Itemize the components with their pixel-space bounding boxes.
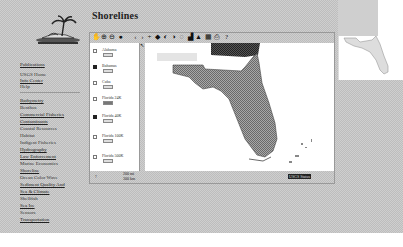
layer-swatch [103, 101, 113, 105]
layer-swatch [103, 53, 113, 57]
sidebar-link-publications[interactable]: Publications [20, 62, 45, 68]
layer-checkbox[interactable] [93, 155, 97, 159]
status-help[interactable]: ? [95, 174, 97, 179]
overview-map[interactable] [338, 0, 403, 80]
sidebar-item[interactable]: Marine Economics [20, 161, 58, 167]
help-icon[interactable]: ? [223, 34, 230, 41]
legend-layer-cuba[interactable]: Cuba [92, 79, 138, 93]
pointer-icon[interactable]: + [146, 34, 153, 41]
sidebar: Publications USGS Home Info Center Help … [16, 0, 84, 233]
layer-label: Florida 500K [102, 153, 123, 158]
layer-swatch [103, 119, 113, 123]
sidebar-item[interactable]: Bathymetry [20, 98, 44, 104]
layer-label: Florida 40K [102, 113, 121, 118]
layer-swatch [103, 139, 113, 143]
refresh-icon[interactable]: ◐ [162, 34, 169, 41]
print-icon[interactable]: ⎙ [213, 34, 220, 41]
layer-label: Florida 24K [102, 95, 121, 100]
identify-icon[interactable]: ◆ [154, 34, 161, 41]
layer-checkbox[interactable] [93, 49, 97, 53]
layer-checkbox[interactable] [93, 65, 97, 69]
select-icon[interactable]: ◑ [170, 34, 177, 41]
sidebar-item[interactable]: Commercial Fisheries [20, 112, 64, 118]
layer-label: Bahamas [102, 63, 117, 68]
legend-layer-bahamas[interactable]: Bahamas [92, 63, 138, 77]
layer-checkbox[interactable] [93, 97, 97, 101]
legend-layer-florida-500k[interactable]: Florida 500K [92, 153, 138, 167]
sidebar-item[interactable]: Shoreline [20, 168, 39, 174]
map-canvas[interactable] [145, 43, 334, 171]
sidebar-item[interactable]: Ocean Color Wave [20, 175, 58, 181]
palm-island-logo [32, 14, 84, 46]
sidebar-item[interactable]: Coastal Resources [20, 126, 57, 132]
sidebar-item[interactable]: Contaminants [20, 119, 48, 125]
sidebar-divider [20, 92, 80, 93]
scale-bar-sublabel: 300 km [123, 176, 135, 181]
sidebar-item[interactable]: Benthos [20, 105, 36, 111]
query-icon[interactable]: ▦ [205, 34, 212, 41]
sidebar-item[interactable]: Sensors [20, 210, 36, 216]
sidebar-item[interactable]: Habitat [20, 133, 35, 139]
sidebar-item[interactable]: Indigent Fisheries [20, 140, 56, 146]
sidebar-item[interactable]: Hydrography [20, 147, 47, 153]
globe-icon[interactable]: ● [117, 34, 124, 41]
layer-checkbox[interactable] [93, 81, 97, 85]
zoom-in-icon[interactable]: ⊕ [100, 34, 107, 41]
layer-checkbox[interactable] [93, 135, 97, 139]
page-title: Shorelines [92, 10, 138, 21]
legend-layer-alabama[interactable]: Alabama [92, 47, 138, 61]
map-statusbar: ? 200 mi 300 km USGS Status [90, 171, 334, 183]
back-icon[interactable]: ‹ [132, 34, 139, 41]
forward-icon[interactable]: › [139, 34, 146, 41]
map-toolbar: ✋ ⊕ ⊖ ● ‹ › + ◆ ◐ ◑ ◌ ▟ ▲ ▦ ⎙ ? [90, 33, 334, 43]
sidebar-item[interactable]: Sediment Quality And [20, 182, 65, 188]
sidebar-item[interactable]: Transportation [20, 217, 49, 223]
layer-label: Florida 100K [102, 133, 123, 138]
layer-swatch [103, 69, 113, 73]
layer-swatch [103, 85, 113, 89]
map-viewer: ✋ ⊕ ⊖ ● ‹ › + ◆ ◐ ◑ ◌ ▟ ▲ ▦ ⎙ ? Alabama … [89, 32, 335, 184]
legend-layer-florida-24k[interactable]: Florida 24K [92, 95, 138, 109]
legend-layer-florida-40k[interactable]: Florida 40K [92, 113, 138, 127]
sidebar-item[interactable]: Sea & Climate [20, 189, 49, 195]
layer-label: Cuba [102, 79, 110, 84]
zoom-out-icon[interactable]: ⊖ [108, 34, 115, 41]
layer-checkbox[interactable] [93, 115, 97, 119]
sidebar-item[interactable]: Shellfish [20, 196, 38, 202]
buffer-icon[interactable]: ▲ [195, 34, 202, 41]
clear-icon[interactable]: ◌ [178, 34, 185, 41]
status-text: USGS Status [288, 174, 311, 179]
measure-icon[interactable]: ▟ [187, 34, 194, 41]
legend-layer-florida-100k[interactable]: Florida 100K [92, 133, 138, 147]
pan-icon[interactable]: ✋ [92, 34, 99, 41]
sidebar-link-help[interactable]: Help [20, 84, 30, 90]
layer-label: Alabama [102, 47, 116, 52]
layer-swatch [103, 159, 113, 163]
layer-legend: Alabama Bahamas Cuba Florida 24K Florida… [90, 43, 140, 171]
sidebar-item[interactable]: Law Enforcement [20, 154, 56, 160]
florida-map [145, 43, 334, 171]
sidebar-item[interactable]: Sea Ice [20, 203, 35, 209]
